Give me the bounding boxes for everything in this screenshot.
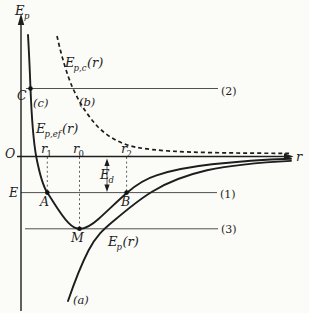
x-axis-label: r [296,149,303,164]
level-3-label: (3) [221,223,237,236]
epef-label-sub: p,ef [45,129,63,139]
point-c-dot [28,86,33,91]
point-b-label: B [120,194,130,209]
point-c-label: C [17,88,27,103]
ed-label-sub: d [109,175,115,185]
potential-energy-diagram: E p r O E p,c (r) E p,ef (r) E p (r) (a)… [0,0,309,313]
curve-tag-b: (b) [79,95,95,109]
point-m-label: M [70,230,85,245]
ed-arrow-down-icon [104,185,109,193]
epc-label-paren: (r) [87,55,103,70]
origin-label: O [5,146,15,161]
y-axis-label-sub: p [24,11,30,21]
epc-label-sub: p,c [74,63,87,73]
level-1-label: (1) [220,188,236,201]
epef-label-paren: (r) [62,121,78,136]
diagram-canvas: E p r O E p,c (r) E p,ef (r) E p (r) (a)… [0,0,309,313]
energy-level-label: E [8,185,18,200]
curve-tag-a: (a) [73,293,89,307]
r1-label-sub: 1 [47,149,52,159]
r0-label-sub: 0 [79,149,84,159]
ep-label-paren: (r) [123,234,139,249]
point-a-label: A [39,194,49,209]
level-2-label: (2) [221,85,237,98]
curve-tag-c: (c) [33,96,48,110]
r2-label-sub: 2 [127,149,132,159]
ed-arrow-up-icon [104,159,109,167]
